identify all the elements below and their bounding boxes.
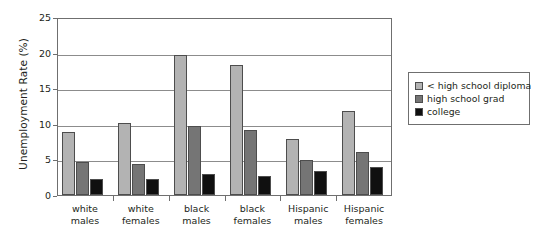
x-axis-tick-mark	[113, 196, 114, 201]
y-axis-tick-label: 25	[27, 13, 51, 23]
plot-area	[57, 18, 392, 196]
bar	[286, 139, 299, 195]
x-axis-tick-mark	[169, 196, 170, 201]
y-axis-tick-label: 0	[27, 191, 51, 201]
bar	[356, 152, 369, 195]
legend-item: high school grad	[415, 93, 523, 104]
x-axis-tick-mark	[280, 196, 281, 201]
y-axis-tick-label: 15	[27, 84, 51, 94]
bar	[258, 176, 271, 195]
y-axis-tick-mark	[53, 196, 57, 197]
x-axis-category-label: Hispanicfemales	[336, 203, 392, 226]
legend-item: college	[415, 106, 523, 117]
x-axis-tick-mark	[225, 196, 226, 201]
legend-item-label: college	[427, 106, 460, 117]
bar	[76, 162, 89, 195]
legend-swatch-icon	[415, 82, 423, 90]
bar	[118, 123, 131, 195]
gridline	[58, 55, 391, 56]
bar	[202, 174, 215, 195]
y-axis-tick-mark	[53, 54, 57, 55]
bar	[188, 126, 201, 195]
x-axis-category-label: Hispanicmales	[280, 203, 336, 226]
x-axis-category-label: whitefemales	[113, 203, 169, 226]
legend-item-label: < high school diploma	[427, 80, 531, 91]
bar	[90, 179, 103, 195]
y-axis-tick-mark	[53, 160, 57, 161]
y-axis-tick-label: 10	[27, 120, 51, 130]
legend-item: < high school diploma	[415, 80, 523, 91]
legend-swatch-icon	[415, 95, 423, 103]
bar	[230, 65, 243, 195]
chart-legend: < high school diplomahigh school gradcol…	[408, 72, 530, 125]
bar	[174, 55, 187, 195]
gridline	[58, 90, 391, 91]
bar	[300, 160, 313, 195]
bar	[62, 132, 75, 195]
x-axis-category-label: whitemales	[57, 203, 113, 226]
x-axis-category-label: blackfemales	[225, 203, 281, 226]
bar	[244, 130, 257, 196]
y-axis-tick-mark	[53, 89, 57, 90]
bar	[314, 171, 327, 195]
legend-item-label: high school grad	[427, 93, 504, 104]
y-axis-tick-mark	[53, 18, 57, 19]
y-axis-tick-label: 20	[27, 49, 51, 59]
bar	[370, 167, 383, 195]
legend-swatch-icon	[415, 108, 423, 116]
y-axis-tick-labels: 0510152025	[21, 18, 51, 196]
x-axis-category-label: blackmales	[169, 203, 225, 226]
bar	[342, 111, 355, 195]
y-axis-tick-label: 5	[27, 156, 51, 166]
y-axis-tick-mark	[53, 125, 57, 126]
bar	[132, 164, 145, 195]
x-axis-tick-mark	[336, 196, 337, 201]
bar	[146, 179, 159, 195]
unemployment-rate-bar-chart: Unemployment Rate (%) 0510152025 whitema…	[0, 0, 539, 245]
